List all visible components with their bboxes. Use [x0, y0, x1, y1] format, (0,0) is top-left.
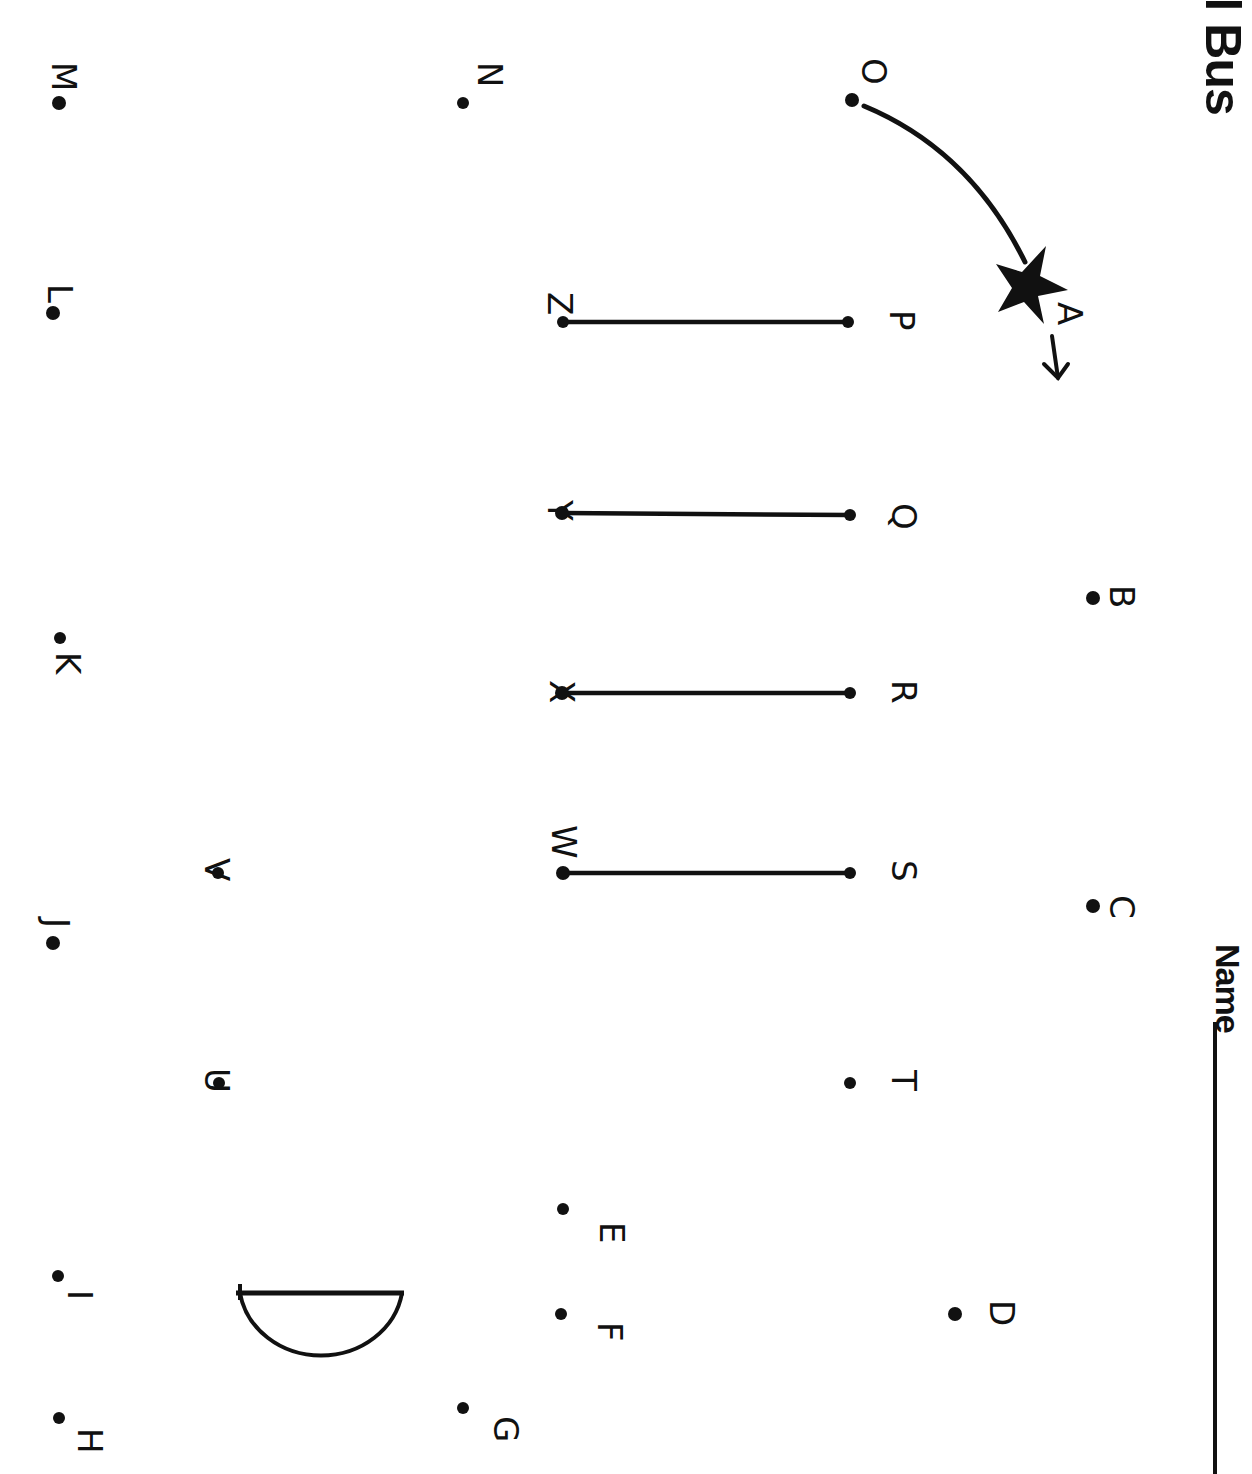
line-q-y	[562, 513, 850, 515]
worksheet-page: ol Bus Name	[0, 0, 1252, 1474]
dot-b[interactable]	[1086, 591, 1100, 605]
dot-h[interactable]	[53, 1412, 65, 1424]
label-t: T	[884, 1069, 924, 1091]
curve-o-to-a	[864, 106, 1025, 262]
label-a: A	[1050, 302, 1090, 325]
dot-j[interactable]	[46, 936, 60, 950]
label-o: O	[854, 58, 894, 85]
label-q: Q	[884, 503, 924, 530]
label-x: X	[542, 680, 582, 703]
label-l: L	[40, 284, 80, 303]
label-v: V	[197, 858, 237, 881]
label-p: P	[882, 310, 922, 331]
dot-i[interactable]	[52, 1270, 64, 1282]
dot-s[interactable]	[844, 867, 856, 879]
label-s: S	[884, 860, 924, 882]
label-i: I	[60, 1290, 100, 1300]
label-m: M	[44, 62, 84, 91]
label-k: K	[48, 652, 88, 676]
label-w: W	[544, 825, 584, 859]
dot-g[interactable]	[457, 1402, 469, 1414]
dot-k[interactable]	[54, 632, 66, 644]
label-d: D	[982, 1300, 1022, 1326]
connected-lines	[562, 322, 850, 873]
wheel-half-circle	[236, 1284, 404, 1355]
dot-q[interactable]	[844, 509, 856, 521]
dot-o[interactable]	[845, 93, 859, 107]
label-c: C	[1102, 895, 1142, 919]
label-b: B	[1102, 585, 1142, 608]
dot-to-dot-canvas: A B C D E F G H I J K L M N O P Q R S T …	[0, 0, 1252, 1474]
label-g: G	[486, 1416, 526, 1442]
dot-t[interactable]	[844, 1077, 856, 1089]
label-e: E	[592, 1222, 632, 1243]
dot-l[interactable]	[46, 306, 60, 320]
dot-m[interactable]	[52, 96, 66, 110]
label-z: Z	[540, 292, 580, 315]
dot-r[interactable]	[844, 687, 856, 699]
label-n: N	[470, 62, 510, 87]
dot-p[interactable]	[842, 316, 854, 328]
label-r: R	[884, 680, 924, 704]
dot-z[interactable]	[557, 316, 569, 328]
dot-e[interactable]	[557, 1203, 569, 1215]
dot-n[interactable]	[457, 97, 469, 109]
dot-d[interactable]	[948, 1307, 962, 1321]
direction-arrow-icon	[1044, 336, 1068, 378]
label-f: F	[590, 1322, 630, 1342]
label-h: H	[70, 1428, 110, 1454]
dot-c[interactable]	[1086, 899, 1100, 913]
dot-labels: A B C D E F G H I J K L M N O P Q R S T …	[37, 58, 1142, 1454]
label-u: U	[197, 1068, 237, 1093]
dot-f[interactable]	[555, 1308, 567, 1320]
label-j: J	[37, 916, 77, 928]
label-y: Y	[540, 499, 580, 521]
dot-w[interactable]	[556, 866, 570, 880]
